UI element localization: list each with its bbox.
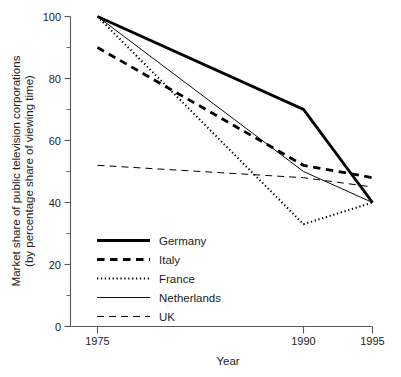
y-tick-label: 20 [49, 259, 61, 271]
legend-label-france: France [159, 273, 195, 285]
x-tick-label: 1995 [360, 335, 384, 347]
legend-label-germany: Germany [159, 235, 207, 247]
legend-label-italy: Italy [159, 254, 180, 266]
legend-label-netherlands: Netherlands [159, 292, 221, 304]
y-axis-title-line1: Market share of public television corpor… [10, 55, 22, 286]
chart-figure: 100 80 60 40 20 0 1975 1990 1995 Year Ma… [0, 0, 401, 377]
series-line-netherlands [98, 17, 373, 203]
y-tick-label: 100 [43, 11, 61, 23]
y-tick-label: 40 [49, 197, 61, 209]
y-tick-label: 60 [49, 135, 61, 147]
line-chart: 100 80 60 40 20 0 1975 1990 1995 Year Ma… [0, 0, 401, 377]
series-line-germany [98, 17, 373, 203]
legend-label-uk: UK [159, 311, 175, 323]
series-lines [98, 17, 373, 225]
x-tick-label: 1990 [291, 335, 315, 347]
y-axis-title-line2: (by percentage share of viewing time) [23, 75, 35, 267]
series-line-italy [98, 48, 373, 178]
x-axis-title: Year [216, 355, 239, 367]
y-tick-label: 0 [55, 321, 61, 333]
x-tick-label: 1975 [85, 335, 109, 347]
y-tick-marks [65, 17, 71, 327]
axis-group [71, 17, 373, 327]
x-tick-labels: 1975 1990 1995 [85, 335, 384, 347]
x-tick-marks [98, 327, 373, 334]
y-tick-label: 80 [49, 73, 61, 85]
chart-legend: Germany Italy France Netherlands UK [97, 235, 221, 323]
y-tick-labels: 100 80 60 40 20 0 [43, 11, 61, 333]
